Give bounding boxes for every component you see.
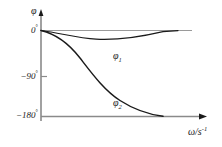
curve-label-phi-1: φ1 — [113, 50, 122, 61]
y-tick-label-minus-90: −90° — [11, 71, 38, 81]
curve-phi-2 — [41, 31, 163, 117]
y-axis-title: φ — [31, 5, 37, 16]
y-axis-arrowhead — [39, 9, 44, 16]
y-tick-label-0: 0° — [20, 25, 38, 35]
y-tick-label-minus-90-value: −90 — [21, 71, 36, 81]
y-tick-label-minus-180-unit: ° — [36, 109, 38, 115]
y-tick-label-minus-90-unit: ° — [36, 70, 38, 76]
x-axis-title-exponent: -1 — [202, 125, 207, 132]
y-tick-label-minus-180: −180° — [5, 110, 38, 120]
curve-label-phi-2: φ2 — [113, 97, 122, 108]
curve-label-phi-1-sub: 1 — [119, 56, 122, 63]
x-axis-arrowhead — [199, 113, 207, 119]
phase-plot-figure: φ ω/s-1 0° −90° −180° φ1 φ2 — [0, 0, 222, 147]
curve-label-phi-2-sub: 2 — [119, 103, 122, 110]
curve-phi-1 — [41, 31, 178, 40]
y-tick-label-minus-180-value: −180 — [16, 110, 36, 120]
x-axis-title-base: ω/s — [188, 126, 202, 137]
y-tick-label-0-unit: ° — [36, 24, 38, 30]
x-axis-title: ω/s-1 — [188, 126, 207, 137]
